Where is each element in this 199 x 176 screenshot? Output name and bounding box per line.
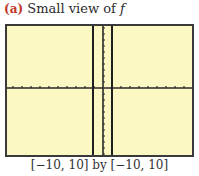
figure-title: Small view of (27, 1, 116, 16)
figure-caption: (a) Small view of f (4, 1, 125, 16)
viewing-window-caption: [−10, 10] by [−10, 10] (0, 158, 199, 172)
function-name: f (120, 1, 125, 16)
graph-plot (7, 26, 192, 155)
figure-label: (a) (4, 2, 23, 16)
calculator-graph-screen (5, 24, 194, 157)
